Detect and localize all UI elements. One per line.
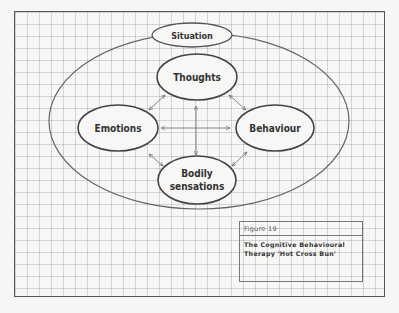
bodily-label-line1: Bodily <box>181 168 213 179</box>
figure-number: Figure 19 <box>240 222 362 236</box>
situation-label: Situation <box>171 31 213 41</box>
figure-caption-box: Figure 19 The Cognitive Behavioural Ther… <box>239 221 363 282</box>
emotions-label: Emotions <box>94 123 141 134</box>
situation-node: Situation <box>152 23 232 47</box>
arrow-behaviour-bodily <box>232 152 247 166</box>
arrow-emotions-bodily <box>149 154 163 166</box>
behaviour-node: Behaviour <box>236 105 314 151</box>
bodily-sensations-node: Bodily sensations <box>158 156 236 204</box>
arrow-thoughts-behaviour <box>229 95 246 110</box>
emotions-node: Emotions <box>78 105 158 151</box>
figure-title: The Cognitive Behavioural Therapy 'Hot C… <box>240 236 362 262</box>
arrow-thoughts-emotions <box>149 95 165 110</box>
bodily-label-line2: sensations <box>170 181 225 192</box>
thoughts-node: Thoughts <box>157 54 237 100</box>
thoughts-label: Thoughts <box>173 72 221 83</box>
behaviour-label: Behaviour <box>249 123 301 134</box>
